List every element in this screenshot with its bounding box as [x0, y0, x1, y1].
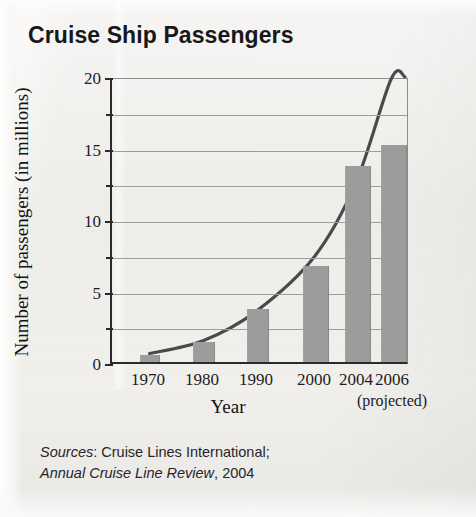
y-axis-tick-label: 5: [93, 283, 102, 303]
y-tick-major: [105, 221, 113, 223]
x-axis-tick-label-1980: 1980: [185, 370, 219, 390]
bar-2006: [381, 145, 407, 362]
y-tick-minor: [106, 114, 113, 116]
x-axis-tick-label-2004: 2004: [339, 370, 373, 390]
plot-area: 05101520: [110, 78, 408, 364]
bar-2004: [345, 166, 371, 362]
y-tick-major: [105, 364, 113, 366]
bar-1980: [193, 342, 215, 362]
y-axis-tick-label: 10: [84, 212, 101, 232]
bar-1990: [247, 309, 269, 362]
y-tick-major: [105, 293, 113, 295]
page-top-margin: [0, 0, 476, 16]
projected-note: (projected): [357, 392, 427, 410]
source-title-italic: Annual Cruise Line Review: [40, 465, 214, 481]
x-axis-tick-label-2000: 2000: [297, 370, 331, 390]
y-tick-minor: [106, 257, 113, 259]
chart-title: Cruise Ship Passengers: [28, 22, 294, 49]
page-bottom-margin: [0, 487, 476, 517]
source-line2-rest: , 2004: [214, 465, 254, 481]
gridline-major: [112, 151, 407, 152]
y-axis-tick-label: 20: [84, 69, 101, 89]
y-tick-major: [105, 78, 113, 80]
y-tick-major: [105, 150, 113, 152]
source-label: Sources: [40, 444, 93, 460]
gridline-minor: [112, 115, 407, 116]
y-axis-tick-label: 15: [84, 140, 101, 160]
x-axis-tick-label-1970: 1970: [131, 370, 165, 390]
y-axis-title: Number of passengers (in millions): [11, 87, 33, 356]
source-note: Sources: Cruise Lines International; Ann…: [40, 442, 270, 484]
bar-2000: [303, 266, 329, 362]
figure-page: Cruise Ship Passengers Number of passeng…: [0, 0, 476, 517]
bar-1970: [140, 355, 160, 362]
y-tick-minor: [106, 185, 113, 187]
y-axis-tick-label: 0: [93, 355, 102, 375]
source-line1: Cruise Lines International;: [101, 444, 269, 460]
x-axis-tick-label-2006: 2006: [375, 370, 409, 390]
y-tick-minor: [106, 328, 113, 330]
x-axis-title: Year: [210, 396, 245, 418]
x-axis-tick-label-1990: 1990: [239, 370, 273, 390]
